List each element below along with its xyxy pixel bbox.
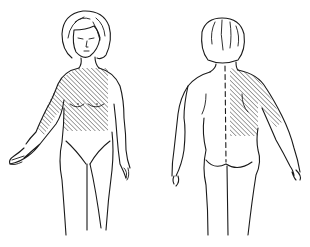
back-waist-left: [203, 118, 208, 235]
front-eyes: [78, 38, 94, 39]
back-view-figure: [172, 18, 301, 235]
front-shaded-region: [38, 68, 108, 135]
front-outer-right-leg: [106, 132, 113, 230]
front-pelvis: [66, 141, 110, 164]
front-nose: [86, 41, 88, 47]
back-left-scapula: [202, 94, 206, 114]
body-diagram: [0, 0, 310, 247]
back-waist-right: [248, 128, 260, 235]
front-view-figure: [10, 11, 131, 235]
front-neck: [79, 57, 99, 68]
back-buttocks: [206, 160, 252, 168]
back-spine-line: [225, 66, 226, 162]
front-inner-legs: [87, 164, 101, 230]
back-hair-strands: [211, 20, 238, 50]
back-right-arm: [262, 108, 301, 180]
back-head: [202, 18, 245, 63]
back-inner-legs: [227, 166, 228, 235]
